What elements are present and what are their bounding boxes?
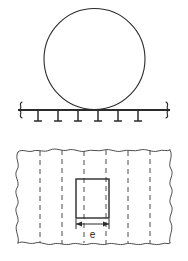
broken-edge-top [18, 149, 170, 152]
roller-circle [44, 9, 145, 110]
engineering-figure: e [0, 0, 188, 261]
hatch-tick [94, 111, 102, 121]
dimension-label-e: e [90, 229, 96, 240]
figure-canvas: e [0, 0, 188, 261]
section-rectangle [76, 179, 109, 218]
broken-edge-right [170, 150, 173, 243]
hatch-tick [54, 111, 62, 121]
broken-edge-bottom [18, 242, 170, 245]
hatch-tick [114, 111, 122, 121]
arrowhead-left-icon [76, 221, 82, 226]
dimension-e: e [76, 219, 109, 240]
hatch-tick [134, 111, 142, 121]
support-hatch-ticks [34, 111, 142, 121]
plan-view: e [16, 149, 172, 245]
hatch-tick [74, 111, 82, 121]
broken-edge-left [16, 152, 19, 243]
elevation-view [18, 9, 170, 122]
hatch-tick [34, 111, 42, 121]
